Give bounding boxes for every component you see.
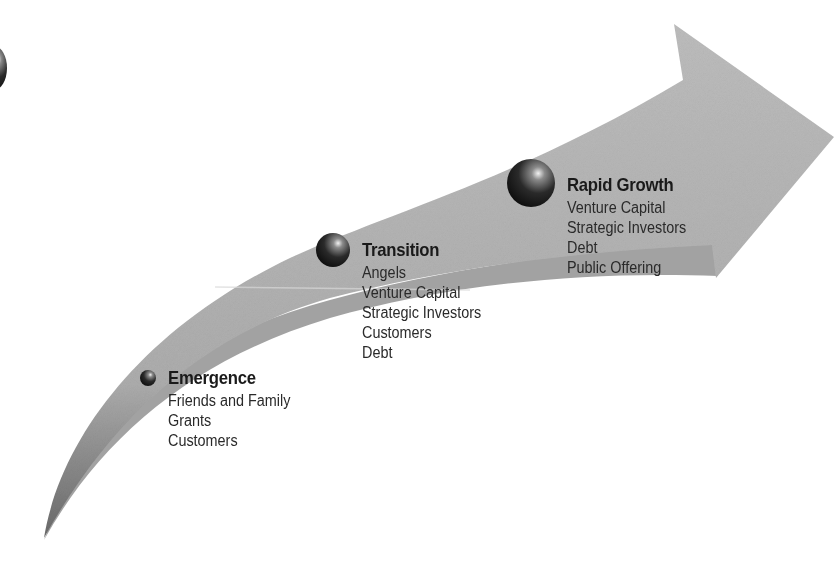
emergence-sphere-icon <box>140 370 156 386</box>
funding-source: Friends and Family <box>168 391 290 411</box>
funding-source: Strategic Investors <box>362 303 481 323</box>
funding-source: Customers <box>362 323 481 343</box>
funding-source: Strategic Investors <box>567 218 686 238</box>
funding-source: Grants <box>168 411 290 431</box>
stage-emergence: Emergence Friends and Family Grants Cust… <box>168 367 304 451</box>
partial-sphere-icon <box>0 46 7 90</box>
rapid-growth-sphere-icon <box>507 159 555 207</box>
transition-sphere-icon <box>316 233 350 267</box>
funding-source: Venture Capital <box>567 198 686 218</box>
stage-transition: Transition Angels Venture Capital Strate… <box>362 239 495 363</box>
stage-rapid-growth: Rapid Growth Venture Capital Strategic I… <box>567 174 700 278</box>
funding-source: Debt <box>567 238 686 258</box>
funding-source: Customers <box>168 431 290 451</box>
funding-source: Venture Capital <box>362 283 481 303</box>
stage-title: Emergence <box>168 367 288 389</box>
funding-source: Public Offering <box>567 258 686 278</box>
funding-source: Angels <box>362 263 481 283</box>
stage-title: Rapid Growth <box>567 174 684 196</box>
stage-title: Transition <box>362 239 479 261</box>
funding-source: Debt <box>362 343 481 363</box>
